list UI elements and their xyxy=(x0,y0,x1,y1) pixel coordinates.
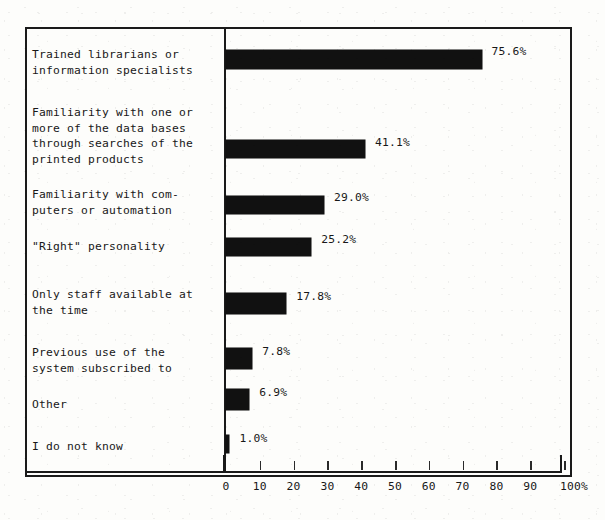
category-label: Previous use of the system subscribed to xyxy=(32,345,172,376)
x-axis-tick xyxy=(429,461,431,470)
bar xyxy=(226,293,286,314)
bar xyxy=(226,389,249,410)
x-axis-tick-label: 0 xyxy=(222,480,229,493)
category-label: Familiarity with one or more of the data… xyxy=(32,105,193,167)
horizontal-bar-chart-figure: Trained librarians or information specia… xyxy=(0,0,605,520)
category-label: "Right" personality xyxy=(32,239,165,255)
plot-area: 75.6%41.1%29.0%25.2%17.8%7.8%6.9%1.0% xyxy=(226,27,566,477)
bar-value-label: 7.8% xyxy=(262,345,290,358)
bar-value-label: 29.0% xyxy=(334,191,369,204)
x-axis-line xyxy=(25,471,562,473)
x-axis-tick xyxy=(564,461,566,470)
bar-value-label: 6.9% xyxy=(259,386,287,399)
x-axis-tick xyxy=(294,461,296,470)
x-axis-tick xyxy=(463,461,465,470)
category-label: Familiarity with com- puters or automati… xyxy=(32,187,179,218)
x-axis-tick-label: 70 xyxy=(456,480,470,493)
x-axis-tick-label: 40 xyxy=(354,480,368,493)
x-axis-tick-label: 50 xyxy=(388,480,402,493)
x-axis-tick xyxy=(496,461,498,470)
x-axis-origin-riser xyxy=(223,455,225,473)
x-axis-tick-label: 90 xyxy=(523,480,537,493)
category-label: Trained librarians or information specia… xyxy=(32,47,193,78)
x-axis-tick-label: 100% xyxy=(560,480,588,493)
x-axis-tick xyxy=(260,461,262,470)
bar-value-label: 17.8% xyxy=(296,290,331,303)
bar xyxy=(226,435,229,453)
x-axis-tick-label: 80 xyxy=(489,480,503,493)
x-axis-tick-label: 60 xyxy=(422,480,436,493)
bar-value-label: 75.6% xyxy=(492,45,527,58)
x-axis-right-riser xyxy=(560,455,562,473)
x-axis-tick-label: 30 xyxy=(320,480,334,493)
bar-value-label: 41.1% xyxy=(375,136,410,149)
bar xyxy=(226,238,311,256)
category-label: Only staff available at the time xyxy=(32,287,193,318)
bar-value-label: 1.0% xyxy=(239,432,267,445)
bar-value-label: 25.2% xyxy=(321,233,356,246)
x-axis-tick-label: 10 xyxy=(253,480,267,493)
category-label: I do not know xyxy=(32,439,123,455)
x-axis-tick xyxy=(395,461,397,470)
x-axis-tick xyxy=(361,461,363,470)
x-axis-tick-label: 20 xyxy=(287,480,301,493)
category-label: Other xyxy=(32,397,67,413)
category-label-column: Trained librarians or information specia… xyxy=(32,27,222,477)
bar xyxy=(226,50,482,69)
bar xyxy=(226,196,324,214)
x-axis-tick xyxy=(530,461,532,470)
bar xyxy=(226,140,365,158)
x-axis-tick xyxy=(327,461,329,470)
bar xyxy=(226,348,252,369)
